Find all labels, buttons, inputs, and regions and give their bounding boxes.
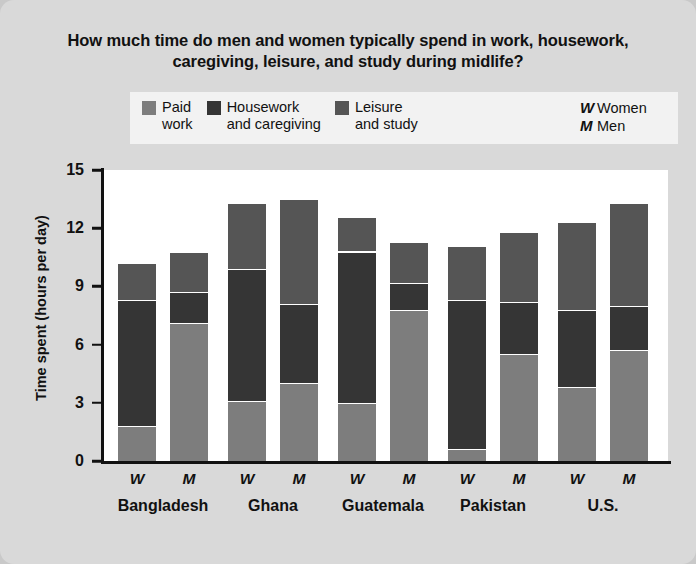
bar-segment-house xyxy=(169,292,209,323)
x-tick-pakistan-w: W xyxy=(447,470,487,488)
x-tick-bangladesh-m: M xyxy=(169,470,209,488)
series-legend: Paid workHousework and caregivingLeisure… xyxy=(130,92,570,144)
bar-bangladesh-w xyxy=(117,170,157,461)
bar-guatemala-w xyxy=(337,170,377,461)
bar-segment-house xyxy=(117,300,157,426)
bar-segment-leisure xyxy=(279,199,319,304)
bar-segment-paid xyxy=(447,449,487,461)
bar-segment-leisure xyxy=(557,222,597,309)
gender-key-symbol-m: M xyxy=(580,117,597,134)
y-tick-label-9: 9 xyxy=(38,277,84,295)
bar-guatemala-m xyxy=(389,170,429,461)
y-tick-label-3: 3 xyxy=(38,394,84,412)
x-tick-us-w: W xyxy=(557,470,597,488)
bar-segment-leisure xyxy=(117,263,157,300)
y-tick-mark-6 xyxy=(92,343,101,346)
gender-key-row-m: MMen xyxy=(580,117,678,135)
gender-key-meaning-w: Women xyxy=(597,100,647,117)
chart-title: How much time do men and women typically… xyxy=(40,30,656,72)
bar-segment-paid xyxy=(609,350,649,461)
legend-item-paid: Paid work xyxy=(142,99,193,132)
bar-us-w xyxy=(557,170,597,461)
x-tick-ghana-m: M xyxy=(279,470,319,488)
bar-segment-leisure xyxy=(227,203,267,269)
gender-key-symbol-w: W xyxy=(580,99,597,116)
x-tick-guatemala-m: M xyxy=(389,470,429,488)
y-tick-label-0: 0 xyxy=(38,452,84,470)
x-tick-bangladesh-w: W xyxy=(117,470,157,488)
bar-segment-leisure xyxy=(499,232,539,302)
legend-label-paid: Paid work xyxy=(162,99,193,132)
bar-us-m xyxy=(609,170,649,461)
bar-segment-house xyxy=(389,283,429,310)
bar-segment-leisure xyxy=(447,246,487,300)
y-tick-mark-9 xyxy=(92,285,101,288)
chart-figure: How much time do men and women typically… xyxy=(0,0,696,564)
gender-key-meaning-m: Men xyxy=(597,118,625,135)
y-tick-mark-12 xyxy=(92,227,101,230)
bar-segment-house xyxy=(227,269,267,401)
bar-segment-paid xyxy=(499,354,539,461)
bar-segment-leisure xyxy=(609,203,649,306)
gender-key-legend: WWomenMMen xyxy=(570,92,678,144)
bar-segment-paid xyxy=(337,403,377,461)
y-tick-label-12: 12 xyxy=(38,219,84,237)
legend-item-house: Housework and caregiving xyxy=(207,99,321,132)
bar-segment-house xyxy=(499,302,539,354)
legend-swatch-house xyxy=(207,101,221,115)
x-tick-guatemala-w: W xyxy=(337,470,377,488)
bar-bangladesh-m xyxy=(169,170,209,461)
bar-segment-paid xyxy=(169,323,209,461)
y-tick-mark-0 xyxy=(92,460,101,463)
x-tick-pakistan-m: M xyxy=(499,470,539,488)
bar-segment-paid xyxy=(227,401,267,461)
y-tick-mark-3 xyxy=(92,402,101,405)
legend-label-leisure: Leisure and study xyxy=(355,99,418,132)
bar-segment-house xyxy=(447,300,487,449)
y-tick-mark-15 xyxy=(92,169,101,172)
bar-segment-leisure xyxy=(389,242,429,283)
legend-swatch-leisure xyxy=(335,101,349,115)
bar-ghana-m xyxy=(279,170,319,461)
gender-key-row-w: WWomen xyxy=(580,99,678,117)
bar-segment-paid xyxy=(557,387,597,461)
legend-label-house: Housework and caregiving xyxy=(227,99,321,132)
x-tick-ghana-w: W xyxy=(227,470,267,488)
country-label-us: U.S. xyxy=(537,497,669,515)
bar-segment-house xyxy=(279,304,319,384)
bar-pakistan-m xyxy=(499,170,539,461)
legend-item-leisure: Leisure and study xyxy=(335,99,418,132)
bar-segment-paid xyxy=(389,310,429,461)
bar-pakistan-w xyxy=(447,170,487,461)
x-axis-line xyxy=(101,461,671,464)
bar-segment-house xyxy=(337,252,377,403)
y-axis-line xyxy=(101,168,104,463)
bar-segment-paid xyxy=(117,426,157,461)
bar-segment-leisure xyxy=(169,252,209,293)
bar-segment-leisure xyxy=(337,217,377,252)
bar-segment-house xyxy=(557,310,597,388)
legend-swatch-paid xyxy=(142,101,156,115)
bar-segment-paid xyxy=(279,383,319,461)
bar-segment-house xyxy=(609,306,649,351)
y-tick-label-15: 15 xyxy=(38,161,84,179)
bar-ghana-w xyxy=(227,170,267,461)
x-tick-us-m: M xyxy=(609,470,649,488)
y-tick-label-6: 6 xyxy=(38,336,84,354)
